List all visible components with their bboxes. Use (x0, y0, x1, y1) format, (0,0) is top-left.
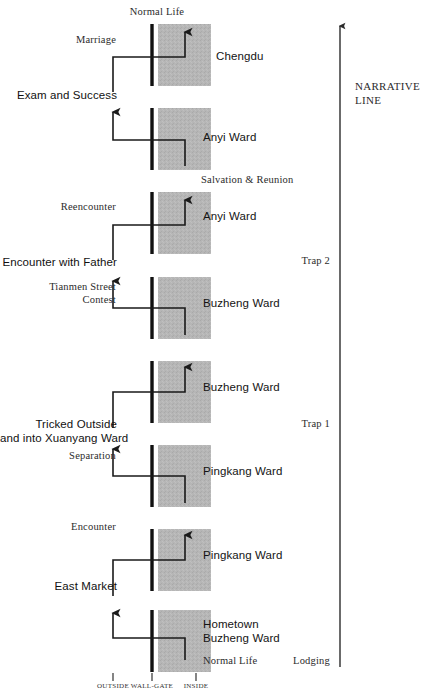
diagram-root: Normal Life NARRATIVE LINE Chengdu Marri… (0, 0, 424, 695)
axis-label-inside: INSIDE (168, 683, 224, 691)
event-label-tianmen-line-1: Tianmen Street (22, 281, 116, 294)
place-label-buzheng-ward-lower: Buzheng Ward (203, 381, 280, 394)
event-label-marriage: Marriage (24, 34, 116, 46)
place-label-hometown-line-2: Buzheng Ward (203, 631, 280, 645)
phase-marker-trap-2: Trap 2 (262, 255, 330, 267)
event-label-reencounter: Reencounter (24, 201, 116, 213)
place-label-hometown-line-1: Hometown (203, 617, 280, 631)
event-label-east-market: East Market (25, 580, 117, 593)
event-label-tianmen-street-contest: Tianmen Street Contest (22, 281, 116, 307)
top-normal-life-label: Normal Life (118, 6, 196, 18)
event-label-tianmen-line-2: Contest (22, 294, 116, 307)
event-label-separation: Separation (24, 450, 116, 462)
bottom-normal-life-label: Normal Life (203, 655, 257, 667)
event-label-tricked-line-1: Tricked Outside (0, 417, 117, 431)
event-label-tricked-outside: Tricked Outside and into Xuanyang Ward (0, 417, 117, 445)
event-label-encounter: Encounter (24, 521, 116, 533)
event-label-encounter-with-father: Encounter with Father (2, 256, 117, 269)
narrative-line-label-1: NARRATIVE (355, 80, 420, 94)
phase-marker-lodging: Lodging (262, 655, 330, 667)
place-label-anyi-ward-upper: Anyi Ward (203, 131, 257, 144)
place-label-chengdu: Chengdu (216, 50, 263, 63)
place-label-pingkang-ward-upper: Pingkang Ward (203, 465, 283, 478)
place-label-hometown-buzheng-ward: Hometown Buzheng Ward (203, 617, 280, 645)
narrative-line-label-2: LINE (355, 94, 420, 108)
event-label-exam-and-success: Exam and Success (12, 89, 117, 102)
x-axis-ticks (113, 673, 196, 681)
place-label-buzheng-ward-upper: Buzheng Ward (203, 297, 280, 310)
narrative-line-caption: NARRATIVE LINE (355, 80, 420, 108)
place-label-pingkang-ward-lower: Pingkang Ward (203, 549, 283, 562)
event-label-tricked-line-2: and into Xuanyang Ward (0, 431, 117, 445)
phase-marker-trap-1: Trap 1 (262, 418, 330, 430)
event-label-salvation-and-reunion: Salvation & Reunion (201, 174, 293, 186)
place-label-anyi-ward-lower: Anyi Ward (203, 210, 257, 223)
ward-bands (158, 24, 211, 672)
